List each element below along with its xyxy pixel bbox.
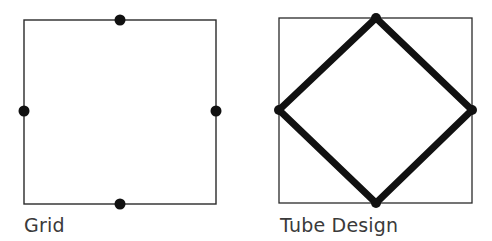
- tube-diamond: [279, 18, 472, 203]
- tube-outer-square: [279, 18, 472, 203]
- grid-caption: Grid: [24, 214, 65, 236]
- diagram-canvas: [0, 0, 492, 241]
- tube-vertex-right: [467, 105, 477, 115]
- grid-square: [24, 20, 216, 204]
- tube-vertex-bottom: [371, 198, 381, 208]
- grid-dot-bottom: [115, 199, 126, 210]
- grid-panel: [19, 15, 222, 210]
- grid-dot-right: [211, 106, 222, 117]
- grid-dot-top: [115, 15, 126, 26]
- grid-dot-left: [19, 106, 30, 117]
- tube-vertex-left: [274, 105, 284, 115]
- tube-design-caption: Tube Design: [280, 214, 398, 236]
- tube-design-panel: [274, 13, 477, 208]
- tube-vertex-top: [371, 13, 381, 23]
